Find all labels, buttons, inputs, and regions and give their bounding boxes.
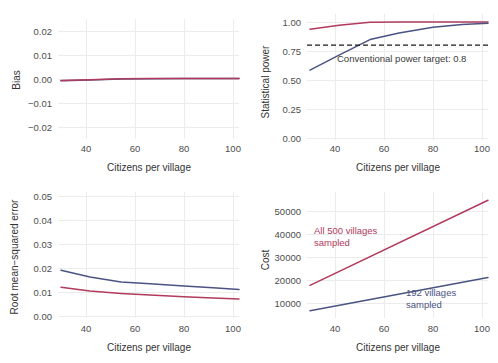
cost-y-axis-title: Cost <box>260 249 271 270</box>
cost-x-tick-labels: 40 60 80 100 <box>330 323 490 334</box>
bias-plot: 0.02 0.01 0.00 −0.01 −0.02 40 60 80 100 … <box>0 0 249 181</box>
rmse-ytick-5: 0.05 <box>34 191 53 202</box>
rmse-gridlines <box>58 192 239 318</box>
bias-y-axis-title: Bias <box>11 70 22 89</box>
power-ytick-4: 1.00 <box>283 17 302 28</box>
rmse-ytick-1: 0.01 <box>34 287 53 298</box>
bias-ytick-0: −0.02 <box>28 122 52 133</box>
bias-xtick-0: 40 <box>81 143 92 154</box>
figure-panel-grid: 0.02 0.01 0.00 −0.01 −0.02 40 60 80 100 … <box>0 0 498 363</box>
cost-label-all-villages-line1: All 500 villages <box>314 225 378 236</box>
rmse-ytick-4: 0.04 <box>34 215 53 226</box>
power-x-axis-title: Citizens per village <box>356 162 440 173</box>
chart-panel-statistical-power: 1.00 0.75 0.50 0.25 0.00 Conventional po… <box>249 0 498 181</box>
bias-x-tick-labels: 40 60 80 100 <box>81 143 241 154</box>
rmse-series-group <box>61 270 239 299</box>
bias-x-axis-title: Citizens per village <box>107 162 191 173</box>
cost-ytick-2: 30000 <box>275 252 301 263</box>
rmse-xtick-0: 40 <box>81 323 92 334</box>
bias-xtick-3: 100 <box>225 143 241 154</box>
power-xtick-2: 80 <box>428 143 439 154</box>
power-y-tick-labels: 1.00 0.75 0.50 0.25 0.00 <box>283 17 302 144</box>
bias-y-tick-labels: 0.02 0.01 0.00 −0.01 −0.02 <box>28 26 52 133</box>
cost-xtick-3: 100 <box>474 323 490 334</box>
cost-xtick-2: 80 <box>428 323 439 334</box>
cost-line-192-villages <box>310 277 488 310</box>
bias-ytick-1: −0.01 <box>28 98 52 109</box>
rmse-y-tick-labels: 0.05 0.04 0.03 0.02 0.01 0.00 <box>34 191 53 322</box>
chart-panel-bias: 0.02 0.01 0.00 −0.01 −0.02 40 60 80 100 … <box>0 0 249 181</box>
cost-ytick-1: 20000 <box>275 275 301 286</box>
cost-label-all-villages: All 500 villages sampled <box>314 225 378 248</box>
rmse-line-192-villages <box>61 270 239 289</box>
bias-xtick-1: 60 <box>130 143 141 154</box>
power-ytick-3: 0.75 <box>283 46 302 57</box>
cost-ytick-0: 10000 <box>275 298 301 309</box>
rmse-ytick-2: 0.02 <box>34 263 53 274</box>
rmse-x-tick-labels: 40 60 80 100 <box>81 323 241 334</box>
cost-plot: 50000 40000 30000 20000 10000 All 500 vi… <box>249 182 498 363</box>
rmse-xtick-1: 60 <box>130 323 141 334</box>
cost-gridlines <box>307 192 488 318</box>
rmse-ytick-3: 0.03 <box>34 239 53 250</box>
cost-label-all-villages-line2: sampled <box>314 237 350 248</box>
power-ytick-1: 0.25 <box>283 104 302 115</box>
cost-ytick-4: 50000 <box>275 206 301 217</box>
bias-xtick-2: 80 <box>179 143 190 154</box>
power-xtick-0: 40 <box>330 143 341 154</box>
power-xtick-3: 100 <box>474 143 490 154</box>
rmse-ytick-0: 0.00 <box>34 311 53 322</box>
rmse-xtick-3: 100 <box>225 323 241 334</box>
cost-label-192-villages-line2: sampled <box>406 299 442 310</box>
cost-ytick-3: 40000 <box>275 229 301 240</box>
cost-label-192-villages: 192 villages sampled <box>406 287 456 310</box>
power-xtick-1: 60 <box>379 143 390 154</box>
rmse-x-axis-title: Citizens per village <box>107 342 191 353</box>
cost-label-192-villages-line1: 192 villages <box>406 287 456 298</box>
bias-ytick-2: 0.00 <box>34 74 53 85</box>
chart-panel-cost: 50000 40000 30000 20000 10000 All 500 vi… <box>249 182 498 363</box>
cost-xtick-0: 40 <box>330 323 341 334</box>
power-plot: 1.00 0.75 0.50 0.25 0.00 Conventional po… <box>249 0 498 181</box>
bias-ytick-3: 0.01 <box>34 50 53 61</box>
power-x-tick-labels: 40 60 80 100 <box>330 143 490 154</box>
bias-ytick-4: 0.02 <box>34 26 53 37</box>
chart-panel-rmse: 0.05 0.04 0.03 0.02 0.01 0.00 40 60 80 1… <box>0 182 249 363</box>
power-target-annotation: Conventional power target: 0.8 <box>337 53 466 64</box>
cost-xtick-1: 60 <box>379 323 390 334</box>
power-ytick-0: 0.00 <box>283 133 302 144</box>
cost-x-axis-title: Citizens per village <box>356 342 440 353</box>
rmse-y-axis-title: Root mean−squared error <box>9 199 20 314</box>
cost-y-tick-labels: 50000 40000 30000 20000 10000 <box>275 206 301 309</box>
rmse-plot: 0.05 0.04 0.03 0.02 0.01 0.00 40 60 80 1… <box>0 182 249 363</box>
cost-series-group <box>310 200 488 310</box>
power-y-axis-title: Statistical power <box>260 45 271 118</box>
power-line-all-villages <box>310 22 488 29</box>
rmse-xtick-2: 80 <box>179 323 190 334</box>
rmse-line-all-villages <box>61 287 239 299</box>
power-ytick-2: 0.50 <box>283 75 302 86</box>
